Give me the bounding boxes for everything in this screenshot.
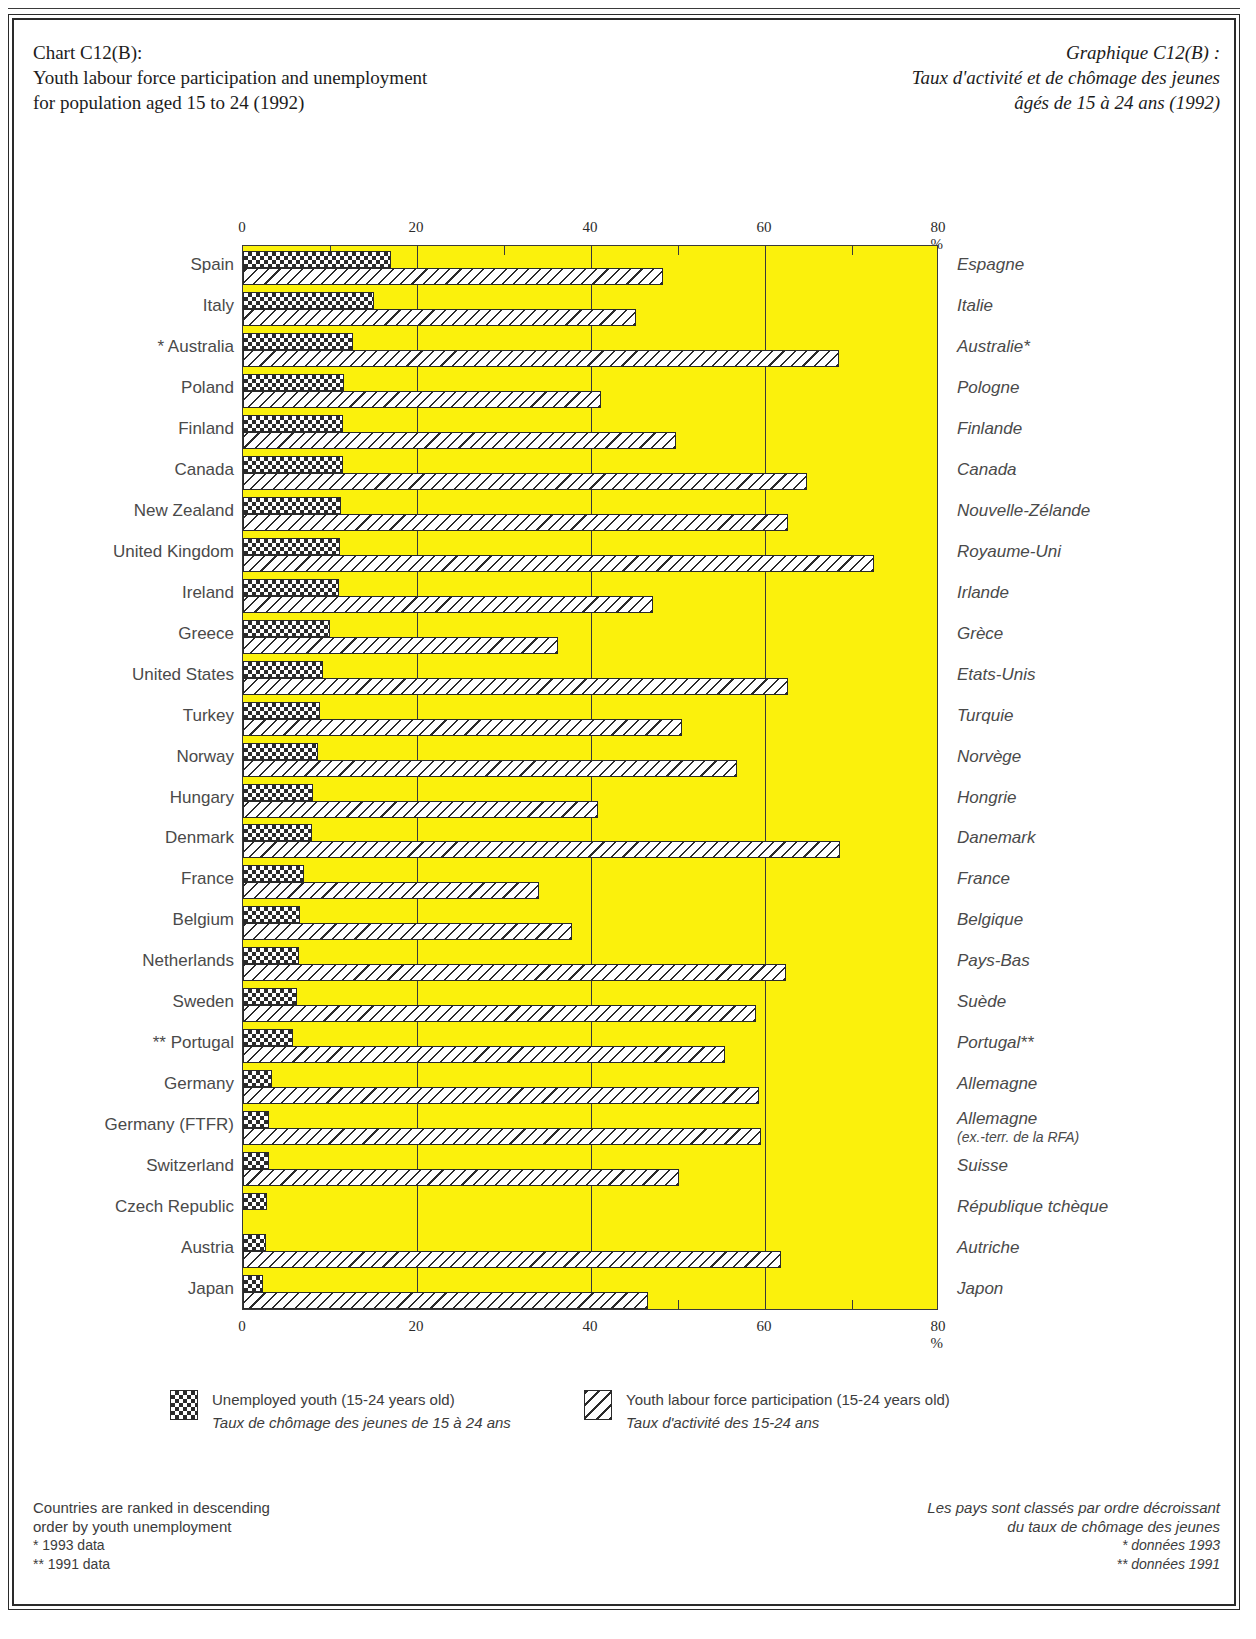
country-label-fr-main: Etats-Unis (957, 665, 1035, 684)
country-label-en: Belgium (173, 910, 234, 930)
legend-participation-fr: Taux d'activité des 15-24 ans (626, 1411, 950, 1434)
bar-participation (243, 841, 840, 858)
country-label-fr: Japon (957, 1279, 1003, 1299)
bar-participation (243, 473, 807, 490)
footnote-en-line-3: * 1993 data (33, 1536, 270, 1555)
legend-unemployed-en: Unemployed youth (15-24 years old) (212, 1391, 455, 1408)
bar-participation (243, 1046, 725, 1063)
bar-unemployment (243, 702, 320, 719)
country-label-fr-main: Japon (957, 1279, 1003, 1298)
country-label-fr: Turquie (957, 706, 1013, 726)
chart-title-fr-line-1: Graphique C12(B) : (660, 40, 1220, 65)
bar-participation (243, 1087, 759, 1104)
bar-participation (243, 1128, 761, 1145)
bar-participation (243, 350, 839, 367)
bar-unemployment (243, 947, 299, 964)
chart-title-en-line-2: Youth labour force participation and une… (33, 65, 593, 90)
country-label-fr-main: République tchèque (957, 1197, 1108, 1216)
footnote-fr-line-1: Les pays sont classés par ordre décroiss… (927, 1498, 1220, 1517)
country-label-en: Italy (203, 296, 234, 316)
country-label-en: Finland (178, 419, 234, 439)
country-label-fr: Suède (957, 992, 1006, 1012)
bar-participation (243, 801, 598, 818)
bar-unemployment (243, 1193, 267, 1210)
chart-title-english: Chart C12(B): Youth labour force partici… (33, 40, 593, 115)
country-label-fr-main: Canada (957, 460, 1017, 479)
country-label-en: Germany (FTFR) (105, 1115, 234, 1135)
gridline-60 (765, 246, 766, 1309)
country-label-fr: Royaume-Uni (957, 542, 1061, 562)
country-label-en: ** Portugal (153, 1033, 234, 1053)
country-label-fr-main: Portugal** (957, 1033, 1034, 1052)
country-label-fr: Suisse (957, 1156, 1008, 1176)
country-label-fr: Pologne (957, 378, 1019, 398)
legend-participation-text: Youth labour force participation (15-24 … (626, 1388, 950, 1434)
country-label-fr-main: Finlande (957, 419, 1022, 438)
bar-unemployment (243, 1234, 266, 1251)
footnote-french: Les pays sont classés par ordre décroiss… (927, 1498, 1220, 1574)
bar-unemployment (243, 865, 304, 882)
country-label-en: United Kingdom (113, 542, 234, 562)
country-label-fr-main: Pologne (957, 378, 1019, 397)
country-label-fr: Grèce (957, 624, 1003, 644)
country-label-fr: Pays-Bas (957, 951, 1030, 971)
country-label-en: Norway (176, 747, 234, 767)
country-label-en: Denmark (165, 828, 234, 848)
country-label-fr-main: Suède (957, 992, 1006, 1011)
bar-unemployment (243, 538, 340, 555)
bar-unemployment (243, 497, 341, 514)
country-label-en: Hungary (170, 788, 234, 808)
bar-unemployment (243, 1152, 269, 1169)
bar-participation (243, 596, 653, 613)
minor-tick-70-bottom (852, 1300, 853, 1309)
country-label-en: Switzerland (146, 1156, 234, 1176)
bar-unemployment (243, 784, 313, 801)
bar-participation (243, 760, 737, 777)
country-label-fr-main: Turquie (957, 706, 1013, 725)
bar-unemployment (243, 292, 374, 309)
x-axis-top-ticklabels: 020406080 % (242, 219, 942, 237)
country-label-fr-main: Danemark (957, 828, 1035, 847)
footnote-en-line-1: Countries are ranked in descending (33, 1498, 270, 1517)
country-label-fr: République tchèque (957, 1197, 1108, 1217)
bar-participation (243, 964, 786, 981)
legend-participation-en: Youth labour force participation (15-24 … (626, 1391, 950, 1408)
country-label-en: * Australia (157, 337, 234, 357)
bar-unemployment (243, 988, 297, 1005)
bar-unemployment (243, 333, 353, 350)
country-label-fr-main: France (957, 869, 1010, 888)
bar-participation (243, 719, 682, 736)
checkerboard-swatch-icon (170, 1390, 198, 1420)
country-label-fr-main: Norvège (957, 747, 1021, 766)
country-label-fr: Hongrie (957, 788, 1017, 808)
country-label-fr: France (957, 869, 1010, 889)
country-label-fr-main: Irlande (957, 583, 1009, 602)
country-label-fr-main: Italie (957, 296, 993, 315)
x-tick-label-20: 20 (409, 219, 424, 236)
bar-unemployment (243, 1111, 269, 1128)
country-label-en: Austria (181, 1238, 234, 1258)
bar-unemployment (243, 620, 330, 637)
top-rule (8, 8, 1240, 9)
country-label-fr-main: Autriche (957, 1238, 1019, 1257)
minor-tick-50-bottom (678, 1300, 679, 1309)
chart-title-en-line-1: Chart C12(B): (33, 40, 593, 65)
footnote-english: Countries are ranked in descending order… (33, 1498, 270, 1574)
bar-participation (243, 637, 558, 654)
x-axis-bottom-ticklabels: 020406080 % (242, 1318, 942, 1336)
country-label-fr-main: Allemagne (957, 1109, 1037, 1128)
chart-title-fr-line-3: âgés de 15 à 24 ans (1992) (660, 90, 1220, 115)
country-label-fr: Danemark (957, 828, 1035, 848)
country-label-fr: Norvège (957, 747, 1021, 767)
country-label-fr: Portugal** (957, 1033, 1034, 1053)
country-label-fr: Canada (957, 460, 1017, 480)
legend-unemployed-fr: Taux de chômage des jeunes de 15 à 24 an… (212, 1411, 511, 1434)
bar-participation (243, 432, 676, 449)
country-label-fr-main: Allemagne (957, 1074, 1037, 1093)
x-tick-label-60: 60 (757, 1318, 772, 1335)
bar-unemployment (243, 1029, 293, 1046)
footnote-fr-line-3: * données 1993 (927, 1536, 1220, 1555)
country-label-en: Canada (174, 460, 234, 480)
bar-participation (243, 1292, 648, 1309)
country-label-en: New Zealand (134, 501, 234, 521)
